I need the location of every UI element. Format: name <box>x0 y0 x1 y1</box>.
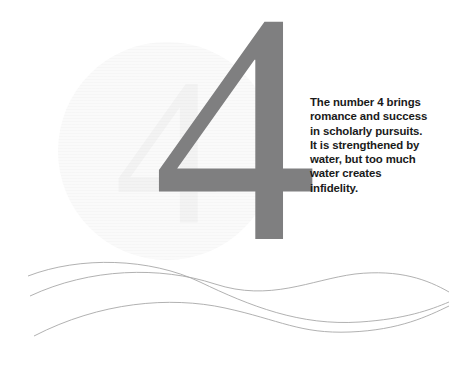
wave-decoration <box>0 252 449 377</box>
numerology-description: The number 4 brings romance and success … <box>310 95 432 195</box>
wave-line-2 <box>30 272 449 296</box>
numerology-card: 4 4 The number 4 brings romance and succ… <box>0 0 449 377</box>
